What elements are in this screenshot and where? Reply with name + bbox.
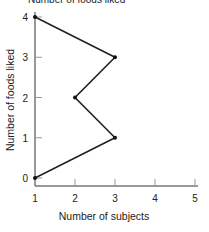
y-ticks: 01234 <box>22 12 42 184</box>
data-points <box>33 15 117 180</box>
svg-text:1: 1 <box>22 133 28 144</box>
chart: Number of foods liked 01234 12345 Number… <box>0 0 209 232</box>
x-ticks: 12345 <box>32 179 198 204</box>
svg-text:0: 0 <box>22 173 28 184</box>
svg-text:3: 3 <box>112 193 118 204</box>
svg-text:1: 1 <box>32 193 38 204</box>
svg-text:2: 2 <box>72 193 78 204</box>
x-axis-label: Number of subjects <box>59 210 149 222</box>
svg-text:3: 3 <box>22 52 28 63</box>
svg-text:5: 5 <box>192 193 198 204</box>
chart-title: Number of foods liked <box>28 0 125 5</box>
svg-text:2: 2 <box>22 93 28 104</box>
svg-text:4: 4 <box>22 12 28 23</box>
y-axis-label: Number of foods liked <box>4 49 16 151</box>
svg-text:4: 4 <box>152 193 158 204</box>
